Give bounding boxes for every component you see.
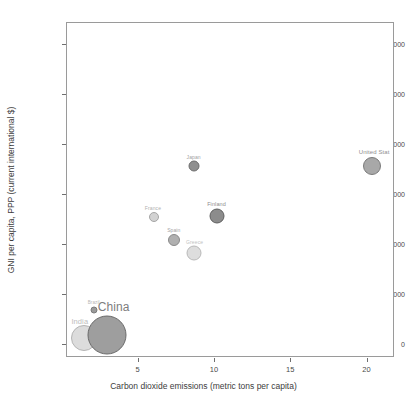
scatter-chart: GNI per capita, PPP (current internation…: [0, 0, 407, 419]
x-tick-mark: [290, 358, 291, 362]
point-label-india: India: [71, 317, 88, 326]
y-axis-title-container: GNI per capita, PPP (current internation…: [0, 0, 22, 380]
plot-area: IndiaChinaBrazilFranceSpainGreeceJapanFi…: [66, 22, 394, 357]
bubble-china[interactable]: [87, 316, 126, 355]
x-tick-label: 15: [286, 365, 294, 374]
bubble-finland[interactable]: [209, 209, 224, 224]
bubble-greece[interactable]: [186, 246, 201, 261]
bubble-france[interactable]: [149, 212, 159, 222]
point-label-japan: Japan: [187, 154, 201, 160]
x-axis-title: Carbon dioxide emissions (metric tons pe…: [0, 381, 407, 391]
x-tick-label: 20: [362, 365, 370, 374]
point-label-finland: Finland: [207, 201, 226, 207]
bubble-brazil[interactable]: [90, 307, 97, 314]
bubble-united-stat[interactable]: [363, 157, 381, 175]
y-axis-title: GNI per capita, PPP (current internation…: [6, 107, 16, 274]
bubble-japan[interactable]: [188, 160, 199, 171]
x-tick-label: 10: [210, 365, 218, 374]
point-label-france: France: [145, 205, 161, 211]
point-label-brazil: Brazil: [88, 300, 100, 305]
x-tick-label: 5: [136, 365, 140, 374]
bubble-spain[interactable]: [168, 234, 180, 246]
point-label-china: China: [98, 300, 130, 314]
x-tick-mark: [367, 358, 368, 362]
x-tick-mark: [138, 358, 139, 362]
point-label-greece: Greece: [186, 239, 203, 245]
x-tick-mark: [214, 358, 215, 362]
point-label-united-stat: United Stat: [359, 149, 390, 155]
point-label-spain: Spain: [167, 227, 180, 233]
